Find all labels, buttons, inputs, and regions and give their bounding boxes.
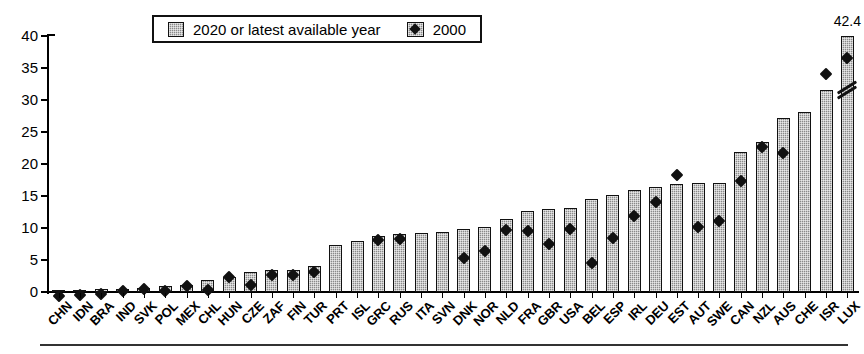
x-axis-tick bbox=[144, 293, 145, 298]
x-axis-tick bbox=[272, 293, 273, 298]
x-label-lux: LUX bbox=[835, 299, 862, 326]
bar-nor bbox=[478, 227, 491, 292]
x-axis-tick bbox=[357, 293, 358, 298]
x-axis-tick bbox=[59, 293, 60, 298]
legend-item-current: 2020 or latest available year bbox=[168, 22, 381, 37]
x-axis-tick bbox=[805, 293, 806, 298]
x-axis-tick bbox=[698, 293, 699, 298]
x-axis-tick bbox=[783, 293, 784, 298]
x-axis-tick bbox=[400, 293, 401, 298]
bar-nzl bbox=[756, 142, 769, 292]
y-axis-tick bbox=[41, 291, 48, 293]
x-axis-tick bbox=[80, 293, 81, 298]
y-axis-tick-label: 5 bbox=[8, 252, 38, 267]
y-axis-tick-label: 20 bbox=[8, 156, 38, 171]
x-axis-tick bbox=[208, 293, 209, 298]
x-axis-tick bbox=[101, 293, 102, 298]
chart-container: 2020 or latest available year 2000 05101… bbox=[0, 0, 864, 354]
bar-gbr bbox=[542, 209, 555, 292]
bar-lux bbox=[841, 36, 854, 292]
x-axis-tick bbox=[847, 293, 848, 298]
x-label-rus: RUS bbox=[387, 299, 415, 327]
x-axis-tick bbox=[634, 293, 635, 298]
x-axis-tick bbox=[549, 293, 550, 298]
bar-aut bbox=[692, 183, 705, 292]
x-axis-tick bbox=[656, 293, 657, 298]
x-axis-tick bbox=[570, 293, 571, 298]
x-axis-tick bbox=[528, 293, 529, 298]
x-axis-tick bbox=[165, 293, 166, 298]
y-axis-tick bbox=[41, 227, 48, 229]
x-axis-tick bbox=[741, 293, 742, 298]
bar-prt bbox=[329, 245, 342, 292]
x-axis-tick bbox=[187, 293, 188, 298]
x-axis-tick bbox=[826, 293, 827, 298]
x-axis-tick bbox=[506, 293, 507, 298]
x-axis-tick bbox=[293, 293, 294, 298]
y-axis-tick-label: 40 bbox=[8, 28, 38, 43]
bar-swe bbox=[713, 183, 726, 292]
x-axis-tick bbox=[251, 293, 252, 298]
legend-bar-swatch-icon bbox=[168, 22, 184, 37]
legend-item-2000: 2000 bbox=[407, 22, 466, 37]
x-axis-tick bbox=[229, 293, 230, 298]
legend-label-current: 2020 or latest available year bbox=[193, 22, 381, 37]
x-label-prt: PRT bbox=[324, 299, 351, 326]
legend-diamond-marker-icon bbox=[407, 22, 424, 37]
x-axis-tick bbox=[613, 293, 614, 298]
bar-est bbox=[670, 184, 683, 292]
bar-aus bbox=[777, 118, 790, 292]
y-axis-tick bbox=[41, 163, 48, 165]
figure-bottom-rule bbox=[40, 344, 848, 346]
x-axis-tick bbox=[464, 293, 465, 298]
y-axis-tick-label: 10 bbox=[8, 220, 38, 235]
y-axis-tick-label: 35 bbox=[8, 60, 38, 75]
y-axis-tick bbox=[41, 259, 48, 261]
marker-2000-est bbox=[670, 169, 683, 182]
y-axis-tick-label: 30 bbox=[8, 92, 38, 107]
bar-isr bbox=[820, 90, 833, 292]
legend-label-2000: 2000 bbox=[433, 22, 466, 37]
x-axis-tick bbox=[762, 293, 763, 298]
plot-area bbox=[48, 36, 858, 292]
bar-fra bbox=[521, 211, 534, 292]
x-axis-tick bbox=[123, 293, 124, 298]
bar-irl bbox=[628, 190, 641, 292]
y-axis-tick-label: 15 bbox=[8, 188, 38, 203]
x-axis-tick bbox=[378, 293, 379, 298]
y-axis-tick bbox=[41, 99, 48, 101]
bar-ita bbox=[415, 233, 428, 292]
bar-che bbox=[798, 112, 811, 292]
bar-svn bbox=[436, 232, 449, 292]
y-axis-tick-label: 25 bbox=[8, 124, 38, 139]
bar-value-label-lux: 42.4 bbox=[834, 14, 861, 28]
bar-bel bbox=[585, 199, 598, 292]
x-axis-tick bbox=[421, 293, 422, 298]
x-axis-tick bbox=[336, 293, 337, 298]
x-axis-tick bbox=[442, 293, 443, 298]
x-axis-tick bbox=[592, 293, 593, 298]
y-axis-tick bbox=[41, 67, 48, 69]
x-axis-tick bbox=[485, 293, 486, 298]
x-axis-tick bbox=[314, 293, 315, 298]
bar-isl bbox=[351, 241, 364, 292]
x-axis-tick bbox=[677, 293, 678, 298]
bar-can bbox=[734, 152, 747, 292]
marker-2000-isr bbox=[820, 67, 833, 80]
y-axis-tick-label: 0 bbox=[8, 284, 38, 299]
y-axis-tick bbox=[41, 195, 48, 197]
y-axis-tick bbox=[41, 131, 48, 133]
x-axis-tick bbox=[719, 293, 720, 298]
bar-usa bbox=[564, 208, 577, 292]
